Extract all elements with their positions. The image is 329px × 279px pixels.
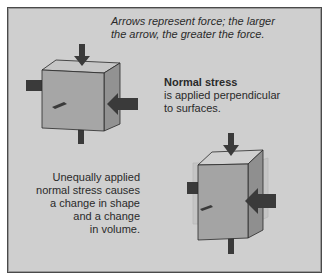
unequal-line: in volume. <box>30 223 140 236</box>
deformed-block <box>187 133 276 254</box>
normal-stress-line-1: is applied perpendicular <box>164 89 280 101</box>
force-caption: Arrows represent force; the larger the a… <box>111 15 311 41</box>
uniform-cube <box>26 44 138 144</box>
left-arrow-icon <box>187 182 199 194</box>
unequal-line: and a change <box>30 210 140 223</box>
unequal-line: Unequally applied <box>30 171 140 184</box>
left-arrow-icon <box>26 80 44 91</box>
normal-stress-title: Normal stress <box>164 76 314 89</box>
stress-diagram <box>0 0 329 279</box>
normal-stress-line-2: to surfaces. <box>164 102 221 114</box>
unequal-line: a change in shape <box>30 197 140 210</box>
unequal-line: normal stress causes <box>30 184 140 197</box>
caption-line-1: Arrows represent force; the larger <box>111 15 275 27</box>
normal-stress-label: Normal stress is applied perpendicular t… <box>164 76 314 115</box>
caption-line-2: the arrow, the greater the force. <box>111 28 264 40</box>
unequal-stress-label: Unequally applied normal stress causes a… <box>30 171 140 236</box>
